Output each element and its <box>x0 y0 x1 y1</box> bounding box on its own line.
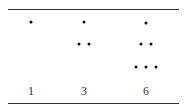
bottom-rule <box>8 103 179 104</box>
dot-icon <box>88 43 91 46</box>
column-label-6: 6 <box>136 84 156 98</box>
dot-icon <box>30 21 33 24</box>
dot-icon <box>155 66 158 69</box>
dot-icon <box>150 43 153 46</box>
dot-icon <box>140 43 143 46</box>
dot-icon <box>78 43 81 46</box>
dot-icon <box>145 66 148 69</box>
column-label-1: 1 <box>21 84 41 98</box>
column-label-3: 3 <box>74 84 94 98</box>
dot-icon <box>145 22 148 25</box>
dot-icon <box>135 66 138 69</box>
dot-icon <box>83 21 86 24</box>
top-rule <box>8 9 179 10</box>
